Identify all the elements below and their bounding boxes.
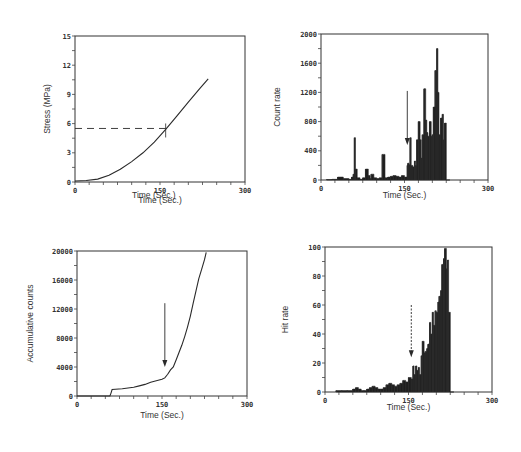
y-tick-label: 100 xyxy=(308,244,321,252)
y-tick-label: 40 xyxy=(313,331,321,339)
y-axis-title: Hit rate xyxy=(280,306,290,334)
y-tick-label: 80 xyxy=(313,273,321,281)
y-tick-label: 60 xyxy=(313,302,321,310)
x-axis-title: Time (Sec.) xyxy=(387,402,431,412)
hit-rate-frame xyxy=(325,247,492,392)
x-tick-label: 0 xyxy=(323,397,327,405)
hit-rate-plot: 0150300020406080100Time (Sec.)Hit rate xyxy=(0,0,521,452)
y-tick-label: 0 xyxy=(317,389,321,397)
hit-rate-group: 0150300020406080100Time (Sec.)Hit rate xyxy=(280,244,498,413)
x-tick-label: 300 xyxy=(486,397,499,405)
hit-rate-chart: 0150300020406080100Time (Sec.)Hit rate xyxy=(0,0,521,452)
y-tick-label: 20 xyxy=(313,360,321,368)
